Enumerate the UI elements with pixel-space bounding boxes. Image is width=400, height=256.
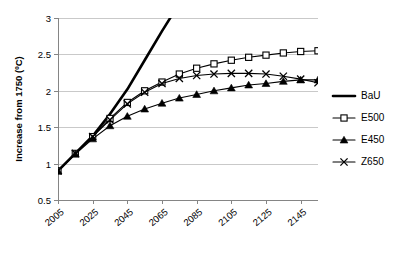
legend-label-BaU: BaU — [361, 90, 380, 101]
series-line-Z650 — [58, 73, 318, 171]
legend-item-E500[interactable]: E500 — [333, 112, 385, 123]
legend-item-Z650[interactable]: Z650 — [333, 156, 384, 167]
series-line-E450 — [58, 80, 318, 171]
legend-item-E450[interactable]: E450 — [333, 134, 385, 145]
legend-label-E500: E500 — [361, 112, 385, 123]
y-axis-ticks: 0.511.522.53 — [38, 13, 58, 206]
legend-label-E450: E450 — [361, 134, 385, 145]
marker-open-square — [315, 48, 321, 54]
marker-open-square — [263, 52, 269, 58]
line-chart: 0.511.522.532005202520452065208521052125… — [0, 0, 400, 256]
series-line-BaU — [58, 3, 179, 170]
y-tick-label: 2.5 — [38, 49, 51, 60]
x-tick-label: 2125 — [251, 206, 274, 228]
x-axis-ticks: 20052025204520652085210521252145 — [43, 200, 309, 228]
x-tick-label: 2105 — [216, 206, 239, 228]
x-tick-label: 2045 — [112, 206, 135, 228]
marker-open-square — [341, 115, 347, 121]
x-tick-label: 2145 — [285, 206, 308, 228]
series-E500 — [55, 48, 321, 174]
x-tick-label: 2025 — [77, 206, 100, 228]
marker-open-square — [194, 65, 200, 71]
axes-group — [58, 18, 318, 201]
marker-open-square — [280, 50, 286, 56]
y-tick-label: 1.5 — [38, 122, 51, 133]
chart-container: 0.511.522.532005202520452065208521052125… — [0, 0, 400, 256]
series-Z650 — [54, 70, 321, 175]
y-tick-label: 0.5 — [38, 195, 51, 206]
gridlines-group — [58, 19, 318, 165]
series-BaU — [58, 3, 179, 170]
x-tick-label: 2005 — [43, 206, 66, 228]
marker-open-square — [298, 48, 304, 54]
legend-label-Z650: Z650 — [361, 156, 384, 167]
x-tick-label: 2065 — [147, 206, 170, 228]
x-tick-label: 2085 — [181, 206, 204, 228]
y-tick-label: 1 — [46, 159, 51, 170]
chart-legend: BaUE500E450Z650 — [333, 90, 385, 167]
marker-open-square — [211, 61, 217, 67]
marker-open-square — [246, 54, 252, 60]
marker-open-square — [228, 57, 234, 63]
legend-item-BaU[interactable]: BaU — [333, 90, 380, 101]
y-tick-label: 2 — [46, 86, 51, 97]
marker-filled-triangle — [123, 113, 131, 120]
y-tick-label: 3 — [46, 13, 51, 24]
series-group — [54, 3, 322, 174]
y-axis-title: Increase from 1750 (ºC) — [13, 56, 24, 161]
series-line-E500 — [58, 51, 318, 171]
